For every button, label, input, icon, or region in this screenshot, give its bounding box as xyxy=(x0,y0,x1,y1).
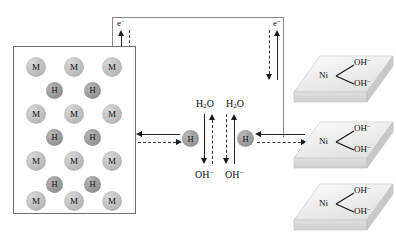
lattice-atom-h: H xyxy=(84,129,101,146)
metal-hydride-electrode: M M M H H M M M H H M M M H H M M M xyxy=(13,46,136,214)
left-oh-formation-head xyxy=(201,158,207,164)
h-into-lattice-head xyxy=(136,131,142,137)
nickel-hydroxide-slab: Ni OH− OH− xyxy=(292,52,396,114)
slab-ligand-bottom-label: OH− xyxy=(354,145,371,154)
slab-ligand-top-label: OH− xyxy=(354,124,371,133)
diagram-canvas: e− e− M M M H H M M M H H M M M H H M M … xyxy=(0,0,396,243)
lattice-atom-m: M xyxy=(102,151,122,171)
lattice-atom-m: M xyxy=(64,104,84,124)
lattice-atom-m: M xyxy=(64,57,84,77)
left-water-formation-head xyxy=(209,114,215,120)
lattice-atom-h: H xyxy=(46,176,63,193)
left-water-formation-line xyxy=(212,120,213,164)
right-water-formation-line xyxy=(234,120,235,164)
slab-metal-label: Ni xyxy=(319,199,328,208)
electron-up-head-right xyxy=(274,30,280,36)
lattice-atom-m: M xyxy=(26,104,46,124)
electron-label-left: e− xyxy=(117,19,125,28)
water-label-left: H2O xyxy=(196,99,214,110)
lattice-atom-m: M xyxy=(102,104,122,124)
h-out-of-lattice-line xyxy=(138,142,176,143)
lattice-atom-m: M xyxy=(26,57,46,77)
lattice-atom-m: M xyxy=(64,151,84,171)
slab-metal-label: Ni xyxy=(319,137,328,146)
right-oh-formation-head xyxy=(223,158,229,164)
nickel-hydroxide-slab: Ni OH− OH− xyxy=(292,180,396,242)
lattice-atom-m: M xyxy=(102,57,122,77)
lattice-atom-m: M xyxy=(26,151,46,171)
h-toward-electrolyte-head xyxy=(255,131,261,137)
left-oh-formation-line xyxy=(204,114,205,158)
slab-metal-label: Ni xyxy=(319,71,328,80)
lattice-atom-m: M xyxy=(64,191,84,211)
right-oh-formation-line xyxy=(226,114,227,158)
electron-down-head-right xyxy=(266,74,272,80)
hydroxide-label-left: OH− xyxy=(195,170,214,180)
electrolyte-hydrogen-right: H xyxy=(237,130,254,147)
electron-up-head-left xyxy=(118,30,124,36)
electron-label-right: e− xyxy=(273,19,281,28)
lattice-atom-h: H xyxy=(46,129,63,146)
external-circuit-frame xyxy=(112,17,284,137)
slab-ligand-bottom-label: OH− xyxy=(354,207,371,216)
slab-ligand-bottom-label: OH− xyxy=(354,79,371,88)
lattice-atom-h: H xyxy=(84,176,101,193)
slab-shape-icon xyxy=(292,52,396,114)
slab-ligand-top-label: OH− xyxy=(354,58,371,67)
water-label-right: H2O xyxy=(226,99,244,110)
slab-ligand-top-label: OH− xyxy=(354,186,371,195)
slab-shape-icon xyxy=(292,180,396,242)
lattice-atom-m: M xyxy=(26,191,46,211)
nickel-hydroxide-slab: Ni OH− OH− xyxy=(292,118,396,180)
hydroxide-label-right: OH− xyxy=(225,170,244,180)
slab-shape-icon xyxy=(292,118,396,180)
right-water-formation-head xyxy=(231,114,237,120)
lattice-atom-h: H xyxy=(84,82,101,99)
lattice-atom-m: M xyxy=(102,191,122,211)
electron-up-line-right xyxy=(277,36,278,80)
lattice-atom-h: H xyxy=(46,82,63,99)
h-into-lattice-line xyxy=(142,134,180,135)
electrolyte-hydrogen-left: H xyxy=(182,130,199,147)
electron-down-line-right xyxy=(269,30,270,74)
